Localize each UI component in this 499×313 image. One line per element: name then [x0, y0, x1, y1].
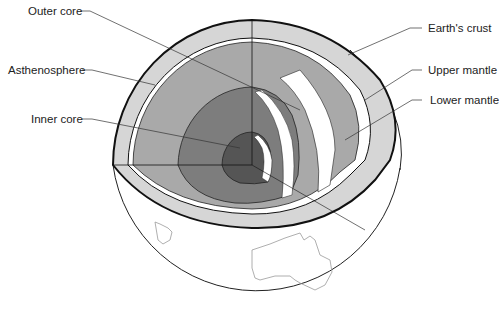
- label-outer-core: Outer core: [28, 4, 82, 18]
- label-earths-crust: Earth's crust: [428, 21, 492, 35]
- label-inner-core: Inner core: [31, 112, 83, 126]
- label-asthenosphere: Asthenosphere: [8, 63, 85, 77]
- label-lower-mantle: Lower mantle: [430, 93, 499, 107]
- label-upper-mantle: Upper mantle: [428, 63, 497, 77]
- leader-line-earths-crust: [348, 28, 422, 55]
